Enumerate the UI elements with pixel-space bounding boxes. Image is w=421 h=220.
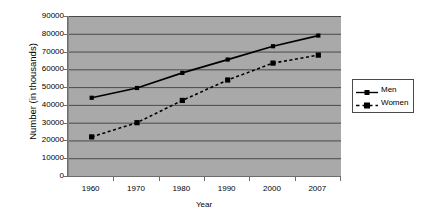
y-axis-tick-label: 60000	[22, 65, 64, 73]
y-axis-tick-label: 10000	[22, 154, 64, 162]
data-point-marker-men	[135, 86, 139, 90]
legend-swatch-dashed-line-icon	[355, 97, 379, 108]
chart-legend: Men Women	[352, 79, 414, 113]
y-axis-tick-label: 40000	[22, 101, 64, 109]
x-axis-tick-label: 2000	[249, 184, 295, 193]
y-axis-tick-mark	[63, 158, 67, 159]
plot-area	[68, 16, 341, 176]
legend-label-men: Men	[379, 85, 397, 94]
y-axis-line	[67, 16, 68, 177]
x-axis-tick-mark	[204, 177, 205, 181]
gridlines	[69, 17, 341, 159]
y-axis-tick-label: 80000	[22, 30, 64, 38]
legend-swatch-solid-line-icon	[355, 84, 379, 95]
data-point-marker-women	[89, 134, 94, 139]
y-axis-tick-labels: 0100002000030000400005000060000700008000…	[18, 0, 64, 220]
data-point-marker-men	[226, 57, 230, 61]
x-axis-tick-label: 1980	[158, 184, 204, 193]
y-axis-tick-mark	[63, 87, 67, 88]
y-axis-tick-mark	[63, 34, 67, 35]
y-axis-tick-label: 50000	[22, 83, 64, 91]
y-axis-tick-mark	[63, 176, 67, 177]
y-axis-tick-mark	[63, 105, 67, 106]
x-axis-tick-label: 1970	[113, 184, 159, 193]
y-axis-tick-mark	[63, 140, 67, 141]
y-axis-tick-mark	[63, 52, 67, 53]
x-axis-tick-mark	[113, 177, 114, 181]
y-axis-tick-label: 30000	[22, 119, 64, 127]
x-axis-tick-mark	[159, 177, 160, 181]
line-chart: Number (in thousands) 010000200003000040…	[0, 0, 421, 220]
legend-item-women: Women	[355, 96, 411, 109]
series-line-women	[92, 55, 319, 137]
x-axis-title: Year	[68, 200, 340, 209]
data-point-marker-men	[316, 33, 320, 37]
y-axis-tick-label: 0	[22, 172, 64, 180]
y-axis-tick-label: 20000	[22, 136, 64, 144]
y-axis-tick-label: 90000	[22, 12, 64, 20]
data-point-marker-men	[90, 96, 94, 100]
x-axis-tick-label: 2007	[294, 184, 340, 193]
data-point-marker-women	[316, 53, 321, 58]
x-axis-tick-label: 1990	[204, 184, 250, 193]
legend-label-women: Women	[379, 98, 408, 107]
data-point-marker-men	[180, 71, 184, 75]
x-axis-tick-mark	[340, 177, 341, 181]
legend-item-men: Men	[355, 83, 411, 96]
y-axis-tick-mark	[63, 69, 67, 70]
data-point-marker-women	[225, 77, 230, 82]
x-axis-tick-mark	[249, 177, 250, 181]
plot-svg	[69, 16, 341, 176]
x-axis-tick-label: 1960	[68, 184, 114, 193]
series-line-men	[92, 36, 319, 98]
y-axis-tick-mark	[63, 123, 67, 124]
x-axis-tick-mark	[295, 177, 296, 181]
data-point-marker-women	[134, 120, 139, 125]
y-axis-tick-mark	[63, 16, 67, 17]
data-point-marker-men	[271, 44, 275, 48]
y-axis-tick-label: 70000	[22, 48, 64, 56]
data-point-marker-women	[180, 98, 185, 103]
data-point-marker-women	[270, 61, 275, 66]
